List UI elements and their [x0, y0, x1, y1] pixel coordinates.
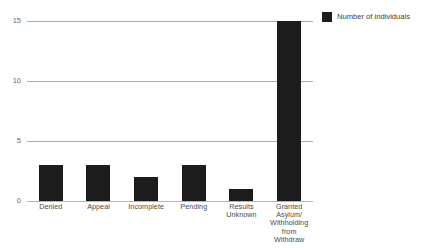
axis-baseline	[27, 201, 313, 202]
bar-incomplete[interactable]	[134, 177, 158, 201]
bar-pending[interactable]	[182, 165, 206, 201]
x-label-pending: Pending	[170, 203, 218, 211]
y-tick-label-0: 0	[17, 197, 21, 205]
bar-slot-incomplete	[122, 21, 170, 201]
bar-slot-pending	[170, 21, 218, 201]
bar-slot-granted-asylum	[265, 21, 313, 201]
chart-legend: Number of individuals	[322, 12, 410, 22]
bar-denied[interactable]	[39, 165, 63, 201]
bar-appeal[interactable]	[86, 165, 110, 201]
bar-granted-asylum[interactable]	[277, 21, 301, 201]
legend-label-number-of-individuals: Number of individuals	[337, 12, 410, 22]
x-label-incomplete: Incomplete	[122, 203, 170, 211]
y-tick-label-5: 5	[17, 137, 21, 145]
y-tick-label-15: 15	[13, 17, 21, 25]
bar-results-unknown[interactable]	[229, 189, 253, 201]
legend-swatch-icon	[322, 12, 332, 22]
bar-group	[27, 21, 313, 201]
x-label-line: Incomplete	[122, 203, 170, 211]
bar-slot-denied	[27, 21, 75, 201]
x-label-appeal: Appeal	[75, 203, 123, 211]
x-label-line: Withdraw	[265, 236, 313, 244]
x-label-denied: Denied	[27, 203, 75, 211]
x-label-line: Pending	[170, 203, 218, 211]
y-tick-label-10: 10	[13, 77, 21, 85]
x-label-line: Appeal	[75, 203, 123, 211]
x-label-line: Unknown	[218, 211, 266, 219]
bar-slot-appeal	[75, 21, 123, 201]
y-axis: 15 10 5 0	[0, 0, 27, 251]
x-label-line: Denied	[27, 203, 75, 211]
x-axis-labels: Denied Appeal Incomplete Pending Results…	[27, 203, 313, 251]
bar-slot-results-unknown	[218, 21, 266, 201]
bar-chart: 15 10 5 0 Denied	[0, 0, 431, 251]
x-label-granted-asylum: Granted Asylum/ Withholding from Withdra…	[265, 203, 313, 244]
x-label-results-unknown: Results Unknown	[218, 203, 266, 219]
